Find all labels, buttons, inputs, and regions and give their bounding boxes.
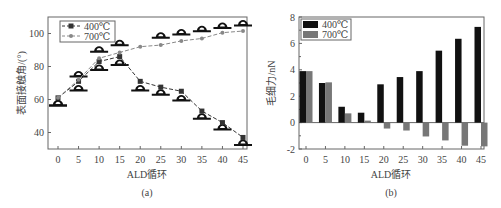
bar-700c xyxy=(403,123,410,131)
y-tick-label: 4 xyxy=(290,64,295,75)
figure: 406080100051015202530354045ALD循环(a)表面接触角… xyxy=(0,0,501,208)
bar-700c xyxy=(442,123,449,141)
x-tick-label: 10 xyxy=(340,154,350,165)
legend-marker-700c xyxy=(69,34,73,38)
bar-700c xyxy=(325,82,332,122)
bar-400c xyxy=(358,113,365,123)
droplet-icon xyxy=(111,60,129,67)
data-point xyxy=(179,39,183,43)
data-point xyxy=(179,89,184,94)
legend-swatch-400c xyxy=(303,21,318,28)
y-tick-label: 80 xyxy=(34,61,44,72)
y-tick-label: 100 xyxy=(29,28,44,39)
data-point xyxy=(241,29,245,33)
data-point xyxy=(117,54,122,59)
x-tick-label: 0 xyxy=(56,154,61,165)
droplet-icon xyxy=(172,29,190,36)
x-axis-label: ALD循环 xyxy=(371,168,412,180)
droplet-icon xyxy=(70,71,88,78)
legend-label-700c: 700℃ xyxy=(84,31,110,42)
bar-700c xyxy=(423,123,430,137)
bar-400c xyxy=(455,39,462,123)
data-point xyxy=(220,120,225,125)
legend: 400℃700℃ xyxy=(301,19,351,40)
data-point xyxy=(158,85,163,90)
y-tick-label: 60 xyxy=(34,94,44,105)
data-point xyxy=(56,96,60,100)
x-tick-label: 15 xyxy=(359,154,369,165)
figure-caption: (a) xyxy=(141,187,152,199)
droplet-icon xyxy=(152,89,170,96)
bar-700c xyxy=(384,123,391,129)
droplet-icon xyxy=(90,64,108,71)
bar-700c xyxy=(364,121,371,123)
y-axis-label: 毛细力/nN xyxy=(265,61,277,106)
bar-700c xyxy=(481,123,488,147)
x-tick-label: 20 xyxy=(135,154,145,165)
data-point xyxy=(77,78,81,82)
droplet-icon xyxy=(49,100,67,107)
data-point xyxy=(138,45,142,49)
y-tick-label: 2 xyxy=(290,91,295,102)
y-axis-label: 表面接触角/(°) xyxy=(15,51,28,114)
x-tick-label: 15 xyxy=(115,154,125,165)
droplet-icon xyxy=(152,32,170,39)
droplet-icon xyxy=(213,22,231,29)
y-tick-label: -2 xyxy=(287,144,295,155)
x-tick-label: 40 xyxy=(217,154,227,165)
data-point xyxy=(200,36,204,40)
legend-label-700c: 700℃ xyxy=(322,29,348,40)
data-point xyxy=(118,50,122,54)
chart-b-capillary-force: -202468051015202530354045ALD循环(b)毛细力/nN4… xyxy=(265,12,488,200)
x-tick-label: 25 xyxy=(398,154,408,165)
x-tick-label: 5 xyxy=(76,154,81,165)
legend-swatch-700c xyxy=(303,31,318,38)
series-line-400c xyxy=(58,57,243,138)
y-tick-label: 6 xyxy=(290,38,295,49)
bar-400c xyxy=(319,83,326,123)
data-point xyxy=(159,43,163,47)
x-tick-label: 35 xyxy=(437,154,447,165)
droplet-icon xyxy=(234,140,252,147)
bar-400c xyxy=(338,107,345,123)
x-tick-label: 35 xyxy=(197,154,207,165)
x-tick-label: 30 xyxy=(176,154,186,165)
chart-a-contact-angle: 406080100051015202530354045ALD循环(a)表面接触角… xyxy=(15,17,252,199)
data-point xyxy=(199,109,204,114)
bar-400c xyxy=(416,71,423,122)
bar-400c xyxy=(377,84,384,122)
bar-400c xyxy=(397,77,404,123)
bar-700c xyxy=(462,123,469,146)
bar-700c xyxy=(345,113,352,122)
y-tick-label: 0 xyxy=(290,117,295,128)
x-tick-label: 40 xyxy=(457,154,467,165)
data-point xyxy=(97,56,101,60)
data-point xyxy=(138,79,143,84)
bar-400c xyxy=(300,71,307,122)
bar-400c xyxy=(436,51,443,123)
x-tick-label: 20 xyxy=(379,154,389,165)
x-tick-label: 30 xyxy=(418,154,428,165)
legend: 400℃700℃ xyxy=(60,21,115,43)
x-axis-label: ALD循环 xyxy=(127,168,168,180)
data-point xyxy=(220,31,224,35)
droplet-icon xyxy=(172,95,190,102)
bar-400c xyxy=(475,27,482,123)
x-tick-label: 45 xyxy=(238,154,248,165)
bar-700c xyxy=(306,71,313,122)
droplet-icon xyxy=(90,46,108,53)
x-tick-label: 5 xyxy=(323,154,328,165)
data-point xyxy=(241,135,246,140)
figure-caption: (b) xyxy=(385,187,397,199)
droplet-icon xyxy=(234,20,252,27)
x-tick-label: 25 xyxy=(156,154,166,165)
x-tick-label: 45 xyxy=(476,154,486,165)
x-tick-label: 10 xyxy=(94,154,104,165)
y-tick-label: 8 xyxy=(290,12,295,23)
droplet-icon xyxy=(131,85,149,92)
legend-marker-400c xyxy=(69,24,74,29)
droplet-icon xyxy=(193,26,211,33)
x-tick-label: 0 xyxy=(304,154,309,165)
y-tick-label: 40 xyxy=(34,127,44,138)
